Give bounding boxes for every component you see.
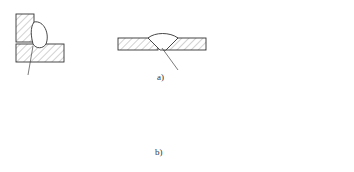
- a2-single-v-butt: [118, 34, 206, 71]
- weld-joints-diagram: [0, 0, 354, 172]
- a1-corner-joint: [16, 14, 64, 75]
- subfigure-label-a: a): [157, 72, 164, 82]
- subfigure-label-b: b): [155, 147, 163, 157]
